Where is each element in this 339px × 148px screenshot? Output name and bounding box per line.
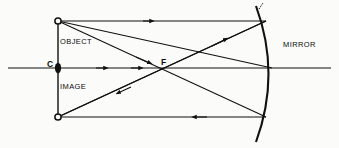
- optics-diagram-canvas: [0, 0, 339, 148]
- center-of-curvature-label: C: [47, 59, 54, 69]
- mirror-arc: [256, 6, 269, 142]
- ray-through-focus-incident-arrow: [136, 57, 150, 63]
- mirror-label: MIRROR: [283, 40, 316, 49]
- ray-diagram-figure: OBJECT IMAGE MIRROR C F: [0, 0, 339, 148]
- image-label: IMAGE: [60, 82, 86, 91]
- center-of-curvature-dot: [55, 63, 61, 73]
- object-label: OBJECT: [60, 37, 92, 46]
- object-tip-marker: [55, 18, 61, 24]
- ray-vertex-reflected-arrow: [212, 39, 226, 46]
- mirror-top-tick: [259, 3, 263, 9]
- focal-point-label: F: [161, 57, 167, 67]
- image-tip-marker: [55, 114, 61, 120]
